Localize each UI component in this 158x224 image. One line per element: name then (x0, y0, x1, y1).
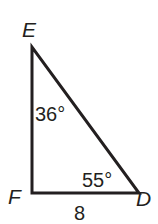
side-label-fd: 8 (74, 202, 85, 224)
angle-label-e: 36° (35, 103, 65, 125)
vertex-label-f: F (8, 185, 22, 208)
vertex-label-e: E (22, 18, 37, 41)
vertex-label-d: D (136, 187, 151, 210)
triangle-diagram: E F D 36° 55° 8 (0, 0, 158, 224)
angle-label-d: 55° (82, 169, 112, 191)
